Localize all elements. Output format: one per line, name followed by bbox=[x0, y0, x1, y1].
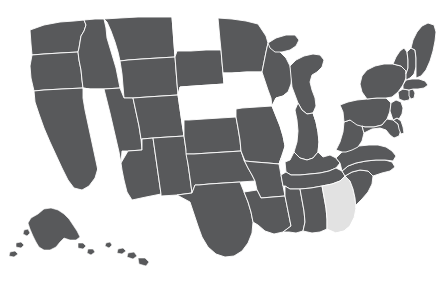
state-OR[interactable] bbox=[30, 52, 83, 91]
us-choropleth-map bbox=[0, 0, 446, 287]
state-CO[interactable] bbox=[133, 95, 184, 139]
state-KS[interactable] bbox=[184, 117, 241, 154]
state-RI[interactable] bbox=[409, 89, 415, 99]
state-WY[interactable] bbox=[120, 57, 178, 98]
usa-map-svg bbox=[0, 0, 446, 287]
state-MA[interactable] bbox=[403, 79, 428, 90]
